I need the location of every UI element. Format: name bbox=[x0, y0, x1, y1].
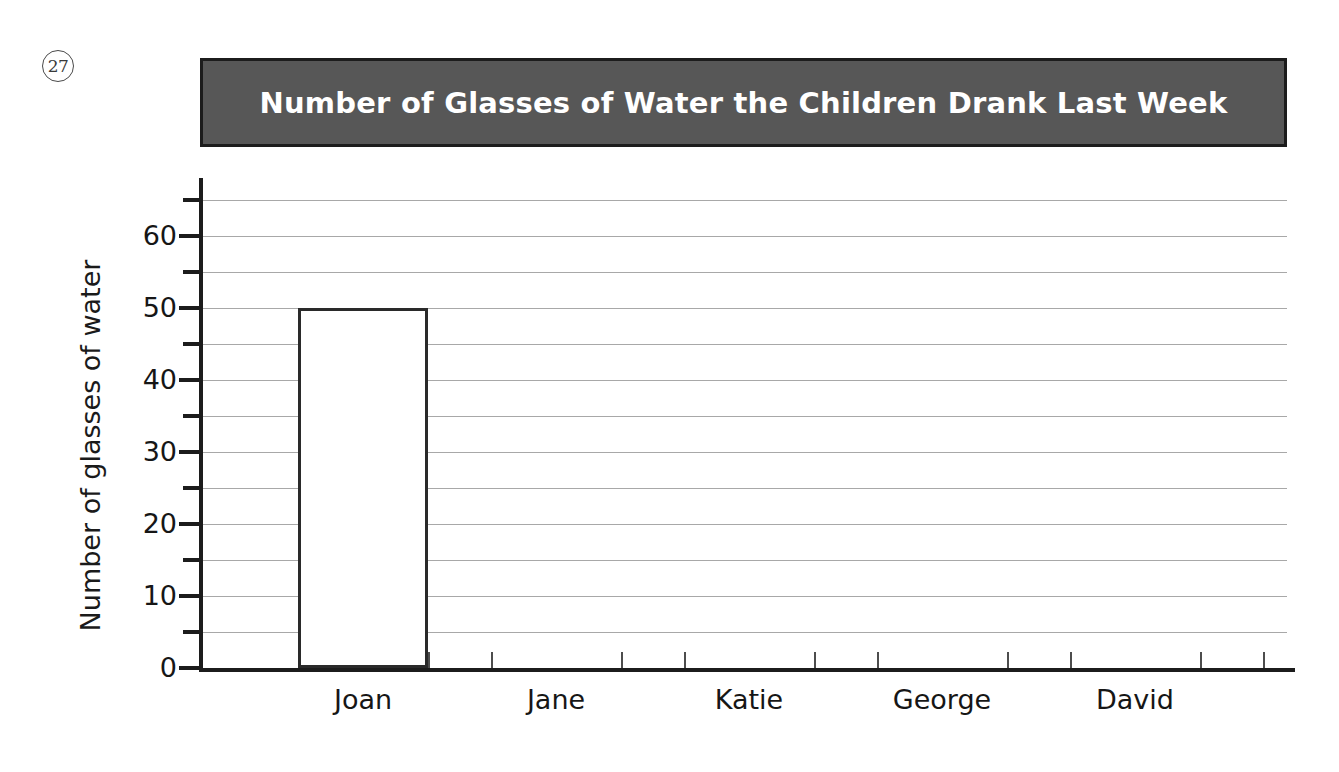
y-axis-tick-label: 60 bbox=[117, 222, 177, 249]
y-axis-tick-label: 40 bbox=[117, 366, 177, 393]
y-axis-minor-tick bbox=[183, 342, 201, 346]
y-axis-minor-tick bbox=[183, 558, 201, 562]
gridline bbox=[201, 272, 1287, 273]
y-axis-minor-tick bbox=[183, 270, 201, 274]
y-axis-tick-label: 20 bbox=[117, 510, 177, 537]
gridline bbox=[201, 236, 1287, 237]
x-axis-tick bbox=[1263, 652, 1265, 668]
y-axis-major-tick bbox=[179, 594, 201, 598]
x-axis-tick bbox=[877, 652, 879, 668]
x-axis-line bbox=[199, 668, 1295, 672]
bar-joan bbox=[298, 308, 428, 668]
x-axis-label-katie: Katie bbox=[649, 686, 849, 713]
y-axis-major-tick bbox=[179, 306, 201, 310]
bar-chart: Number of glasses of water 0102030405060… bbox=[0, 0, 1339, 772]
y-axis-major-tick bbox=[179, 522, 201, 526]
x-axis-tick bbox=[621, 652, 623, 668]
y-axis-major-tick bbox=[179, 450, 201, 454]
y-axis-major-tick bbox=[179, 666, 201, 670]
y-axis-major-tick bbox=[179, 234, 201, 238]
x-axis-tick bbox=[814, 652, 816, 668]
x-axis-tick bbox=[1070, 652, 1072, 668]
x-axis-label-david: David bbox=[1035, 686, 1235, 713]
x-axis-tick bbox=[1007, 652, 1009, 668]
y-axis-minor-tick bbox=[183, 486, 201, 490]
y-axis-tick-label: 10 bbox=[117, 582, 177, 609]
x-axis-label-jane: Jane bbox=[456, 686, 656, 713]
x-axis-label-george: George bbox=[842, 686, 1042, 713]
y-axis-tick-label: 50 bbox=[117, 294, 177, 321]
y-axis-minor-tick bbox=[183, 414, 201, 418]
x-axis-tick bbox=[428, 652, 430, 668]
y-axis-minor-tick bbox=[183, 630, 201, 634]
y-axis-major-tick bbox=[179, 378, 201, 382]
x-axis-tick bbox=[684, 652, 686, 668]
y-axis-title: Number of glasses of water bbox=[75, 236, 106, 656]
y-axis-tick-label: 30 bbox=[117, 438, 177, 465]
x-axis-tick bbox=[491, 652, 493, 668]
y-axis-minor-tick bbox=[183, 198, 201, 202]
y-axis-tick-label: 0 bbox=[117, 654, 177, 681]
x-axis-tick bbox=[1200, 652, 1202, 668]
x-axis-label-joan: Joan bbox=[263, 686, 463, 713]
gridline bbox=[201, 200, 1287, 201]
